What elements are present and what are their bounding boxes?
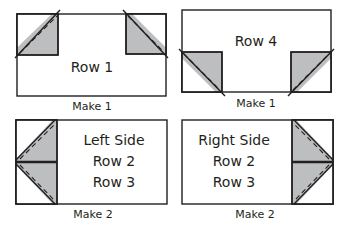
block-label-line: Row 4 — [235, 33, 278, 49]
block-label-line: Row 3 — [213, 174, 255, 190]
block-label-line: Row 2 — [93, 153, 135, 169]
block-row-4: Row 4 Make 1 — [179, 10, 334, 110]
block-left-side: Left Side Row 2 Row 3 Make 2 — [16, 120, 167, 221]
make-count-caption: Make 1 — [236, 97, 275, 110]
block-row-1: Row 1 Make 1 — [15, 10, 168, 113]
block-label-line: Row 2 — [213, 153, 255, 169]
flying-geese-left — [16, 120, 57, 204]
quilt-block-diagram: .ol { fill: none; stroke: #231f20; strok… — [0, 0, 343, 227]
make-count-caption: Make 2 — [73, 208, 112, 221]
corner-square-top-left — [15, 10, 60, 58]
flying-geese-right — [292, 120, 333, 204]
block-label-line: Right Side — [198, 132, 270, 148]
block-right-side: Right Side Row 2 Row 3 Make 2 — [182, 120, 333, 221]
make-count-caption: Make 2 — [235, 208, 274, 221]
corner-square-bottom-left — [179, 49, 225, 96]
block-label-line: Row 1 — [71, 59, 113, 75]
corner-square-bottom-right — [288, 49, 334, 96]
block-label-line: Row 3 — [93, 174, 135, 190]
make-count-caption: Make 1 — [72, 100, 111, 113]
block-label-line: Left Side — [83, 132, 144, 148]
corner-square-top-right — [123, 10, 168, 58]
